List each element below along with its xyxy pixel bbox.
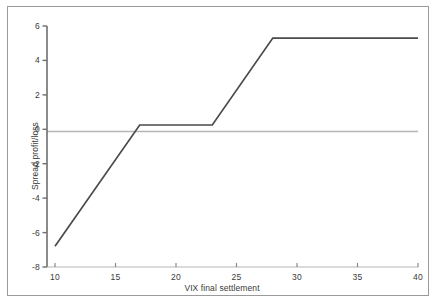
- plot-canvas: [0, 0, 443, 308]
- data-series-line: [55, 38, 418, 246]
- line-chart: 6 4 2 0 -2 -4 -6 -8 10 15 20 25 30 35 40…: [0, 0, 443, 308]
